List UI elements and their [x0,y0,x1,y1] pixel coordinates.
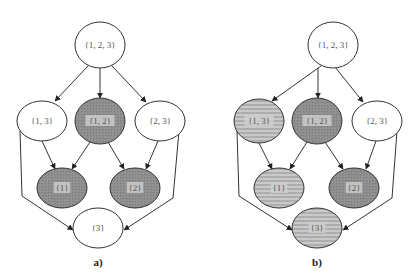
node-b-1: {1} [254,168,304,208]
node-b-23: {2, 3} [352,101,402,141]
lattice-diagram-figure: {1, 2, 3}{1, 3}{1, 2}{2, 3}{1}{2}{3}{1, … [0,0,420,280]
node-a-3: {3} [73,208,123,248]
node-label: {1, 2} [306,116,328,126]
node-b-13: {1, 3} [234,99,284,143]
node-label: {1, 3} [248,116,270,126]
node-label: {1} [272,183,285,193]
node-b-12: {1, 2} [292,98,342,144]
node-label: {2} [128,183,141,193]
node-b-3: {3} [292,208,342,248]
node-label: {3} [91,223,104,233]
node-a-2: {2} [110,168,160,208]
node-label: {1, 2} [89,116,111,126]
edge-a-23-2 [146,141,158,169]
node-label: {1} [55,183,68,193]
panel-labels: a)b) [93,256,322,269]
node-label: {2, 3} [366,116,388,126]
diagram-svg: {1, 2, 3}{1, 3}{1, 2}{2, 3}{1}{2}{3}{1, … [0,0,420,280]
node-b-123: {1, 2, 3} [308,22,358,68]
edge-b-13-1 [259,143,272,169]
edge-b-123-23 [335,67,363,102]
node-a-1: {1} [37,168,87,208]
node-a-12: {1, 2} [75,98,125,144]
node-label: {1, 2, 3} [84,40,115,50]
edge-b-12-2 [325,142,343,169]
edge-a-123-13 [55,66,88,101]
node-label: {1, 3} [31,116,53,126]
panel-label-b: b) [312,256,322,269]
node-a-13: {1, 3} [17,101,67,141]
node-label: {2} [347,183,360,193]
node-label: {3} [310,223,323,233]
edge-a-123-23 [112,66,146,102]
node-label: {1, 2, 3} [317,40,348,50]
edge-a-13-1 [42,141,55,169]
panel-b-edges [237,66,397,230]
panel-label-a: a) [93,256,103,269]
node-b-2: {2} [329,168,379,208]
edge-a-12-2 [108,142,124,169]
edge-b-23-2 [366,141,376,169]
edge-b-12-1 [290,142,307,169]
panel-a-edges [20,66,179,230]
edge-a-12-1 [72,142,90,169]
node-label: {2, 3} [149,116,171,126]
node-a-123: {1, 2, 3} [75,22,125,68]
edge-b-123-13 [272,66,321,101]
nodes-layer: {1, 2, 3}{1, 3}{1, 2}{2, 3}{1}{2}{3}{1, … [17,22,402,248]
node-a-23: {2, 3} [135,101,185,141]
